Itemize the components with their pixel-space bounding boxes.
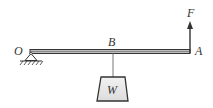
label-weight: W [107, 83, 118, 97]
ground-hatch-icon [20, 61, 43, 65]
label-load-point: B [108, 35, 116, 49]
label-pivot: O [14, 44, 23, 58]
label-end-point: A [194, 44, 203, 58]
force-arrow-icon [187, 21, 193, 53]
pivot-support [20, 52, 43, 65]
beam [30, 50, 190, 54]
label-force: F [186, 6, 195, 20]
lever-diagram: O B A F W [0, 0, 213, 108]
